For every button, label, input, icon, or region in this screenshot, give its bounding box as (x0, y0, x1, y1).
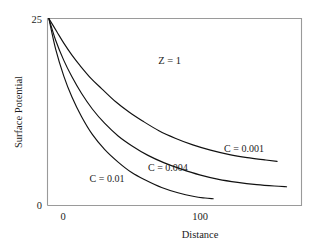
curve-label-c-0-001: C = 0.001 (224, 143, 264, 154)
chart-figure: 25 0 0 100 Distance Surface Potential Z … (0, 0, 320, 247)
xtick-label-0: 0 (60, 211, 65, 222)
annotation-z-value: Z = 1 (158, 55, 181, 66)
x-axis-title: Distance (182, 229, 219, 240)
axis-frame (48, 19, 302, 206)
y-axis-title: Surface Potential (13, 76, 24, 148)
curve-c-0-001 (49, 19, 277, 162)
curve-label-c-0-004: C = 0.004 (148, 162, 188, 173)
ytick-label-0: 0 (37, 200, 42, 211)
curve-label-c-0-01: C = 0.01 (90, 173, 125, 184)
xtick-label-100: 100 (192, 211, 208, 222)
chart-plot-area: 25 0 0 100 Distance Surface Potential Z … (0, 0, 320, 247)
ytick-label-25: 25 (32, 14, 43, 25)
